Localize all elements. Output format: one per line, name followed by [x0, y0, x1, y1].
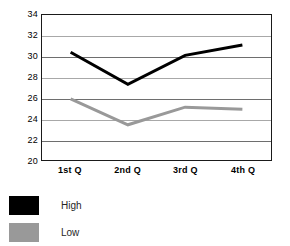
plot-inner: [42, 15, 271, 160]
legend-item: High: [9, 194, 209, 216]
y-axis-tick-label: 20: [14, 157, 38, 166]
series-line-high: [71, 45, 243, 84]
y-axis-tick-label: 28: [14, 73, 38, 82]
legend-swatch-high: [9, 196, 39, 215]
legend-item: Low: [9, 221, 209, 243]
x-axis-tick-label: 4th Q: [214, 164, 272, 178]
legend-swatch-low: [9, 223, 39, 242]
y-axis-tick-label: 26: [14, 94, 38, 103]
legend-label: High: [61, 200, 82, 211]
series-layer: [42, 15, 271, 160]
y-axis-tick-label: 22: [14, 136, 38, 145]
plot-area: [41, 14, 272, 161]
y-axis-tick-label: 30: [14, 52, 38, 61]
legend-label: Low: [61, 227, 79, 238]
x-axis-tick-label: 3rd Q: [157, 164, 215, 178]
y-axis-tick-label: 32: [14, 31, 38, 40]
y-axis: 3432302826242220: [14, 14, 38, 161]
line-chart-figure: 3432302826242220 1st Q2nd Q3rd Q4th Q: [0, 0, 290, 185]
chart-legend: HighLow: [9, 194, 209, 246]
x-axis-tick-label: 1st Q: [41, 164, 99, 178]
y-axis-tick-label: 34: [14, 10, 38, 19]
series-line-low: [71, 99, 243, 125]
x-axis: 1st Q2nd Q3rd Q4th Q: [41, 164, 272, 178]
x-axis-tick-label: 2nd Q: [99, 164, 157, 178]
y-axis-tick-label: 24: [14, 115, 38, 124]
